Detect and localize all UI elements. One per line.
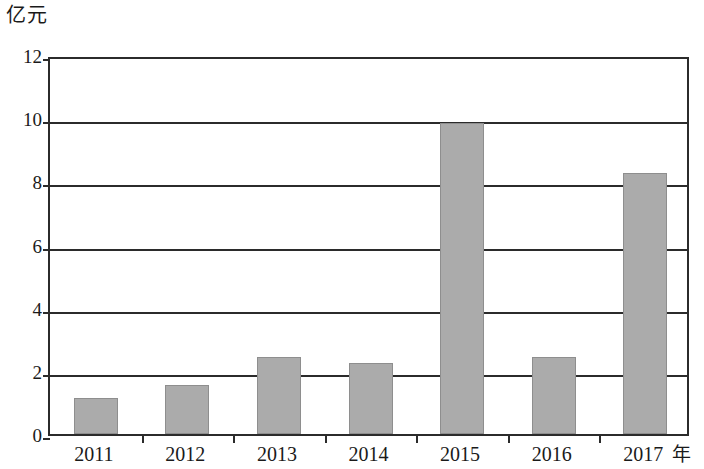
y-tick-mark [43, 185, 50, 187]
y-axis-unit-label: 亿元 [6, 2, 48, 28]
y-tick-label: 4 [2, 300, 42, 319]
x-tick-label: 2012 [140, 443, 230, 465]
gridline [50, 122, 687, 124]
y-tick-mark [43, 438, 50, 440]
y-tick-label: 6 [2, 237, 42, 256]
y-tick-mark [43, 375, 50, 377]
bar-chart-figure: 亿元 024681012 201120122013201420152016201… [0, 0, 704, 469]
y-tick-mark [43, 312, 50, 314]
y-tick-label: 8 [2, 173, 42, 192]
y-tick-label: 12 [2, 47, 42, 66]
y-tick-mark [43, 249, 50, 251]
y-tick-label: 0 [2, 426, 42, 445]
x-tick-mark [599, 434, 601, 443]
y-tick-label: 10 [2, 110, 42, 129]
y-tick-mark [43, 122, 50, 124]
x-tick-mark [508, 434, 510, 443]
y-tick-label: 2 [2, 363, 42, 382]
bar-2011 [74, 398, 118, 434]
x-tick-mark [325, 434, 327, 443]
x-axis-unit-label: 年 [672, 443, 691, 465]
x-tick-label: 2011 [49, 443, 139, 465]
x-tick-mark [233, 434, 235, 443]
x-tick-label: 2016 [507, 443, 597, 465]
x-tick-mark [142, 434, 144, 443]
gridline [50, 312, 687, 314]
gridline [50, 249, 687, 251]
bar-2015 [440, 123, 484, 434]
bar-2014 [349, 363, 393, 434]
x-tick-label: 2013 [232, 443, 322, 465]
bar-2016 [532, 357, 576, 434]
plot-area [48, 57, 689, 436]
x-tick-label: 2014 [324, 443, 414, 465]
y-tick-mark [43, 59, 50, 61]
gridline [50, 185, 687, 187]
x-tick-label: 2015 [415, 443, 505, 465]
bar-2012 [165, 385, 209, 434]
bar-2013 [257, 357, 301, 434]
bar-2017 [623, 173, 667, 434]
x-tick-mark [416, 434, 418, 443]
